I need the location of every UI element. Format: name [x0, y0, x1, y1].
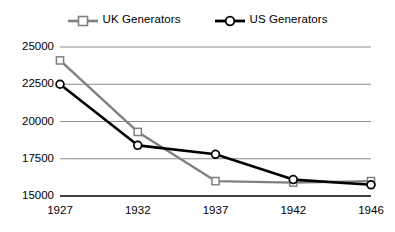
- data-point-marker[interactable]: [212, 150, 220, 158]
- data-point-marker[interactable]: [56, 57, 63, 64]
- data-series-layer: [56, 57, 375, 189]
- line-chart: UK Generators US Generators 250002250020…: [0, 0, 395, 232]
- plot-area: [0, 0, 395, 232]
- data-point-marker[interactable]: [56, 80, 64, 88]
- data-point-marker[interactable]: [367, 181, 375, 189]
- data-point-marker[interactable]: [289, 176, 297, 184]
- series-line-us-generators: [60, 84, 371, 185]
- data-point-marker[interactable]: [134, 128, 141, 135]
- data-point-marker[interactable]: [212, 178, 219, 185]
- series-us-generators: [56, 80, 375, 188]
- data-point-marker[interactable]: [134, 141, 142, 149]
